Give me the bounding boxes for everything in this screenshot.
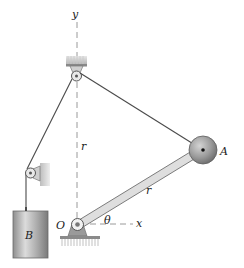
ceiling-support	[66, 56, 87, 73]
angle-theta-label: θ	[104, 214, 111, 227]
sphere-a	[189, 136, 217, 164]
pivot-o	[60, 219, 100, 247]
x-axis-label: x	[136, 217, 143, 230]
rope-to-sphere	[80, 73, 203, 150]
y-axis-label: y	[71, 8, 79, 21]
vertical-r-label: r	[81, 140, 87, 153]
rod-oa	[79, 146, 204, 227]
rope-to-left-pulley	[27, 79, 72, 169]
left-pulley	[26, 168, 36, 178]
mechanism-diagram: y r r θ x O A B	[0, 0, 244, 268]
sphere-a-label: A	[219, 145, 228, 158]
block-b-label: B	[24, 229, 33, 242]
pivot-o-label: O	[56, 219, 65, 232]
rod-r-label: r	[146, 184, 152, 197]
top-pulley	[72, 71, 82, 81]
